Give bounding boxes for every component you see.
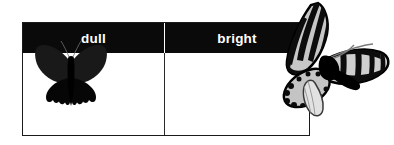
dull-butterfly-image: [30, 36, 112, 114]
bright-butterfly-image: [252, 0, 394, 120]
figure-root: dull bright: [0, 0, 394, 145]
